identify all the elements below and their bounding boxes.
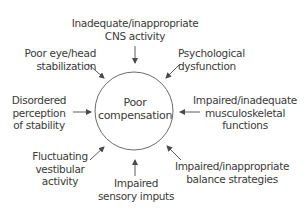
factor-top-line2: CNS activity: [60, 30, 210, 43]
center-label-line2: compensation: [94, 109, 176, 122]
factor-left-line1: Disordered: [6, 94, 72, 107]
factor-bottom-right-line2: balance strategies: [172, 173, 292, 186]
factor-bottom-line1: Impaired: [95, 177, 177, 190]
factor-bottom-line2: sensory imputs: [95, 190, 177, 203]
factor-bottom-left-line1: Fluctuating: [30, 150, 90, 163]
arrow-bottom-right: [167, 146, 181, 160]
factor-top-right: Psychological dysfunction: [178, 47, 248, 72]
factor-right-line2: musculoskeletal: [190, 107, 300, 120]
factor-right: Impaired/inadequate musculoskeletal func…: [190, 94, 300, 132]
factor-top-right-line2: dysfunction: [178, 60, 248, 73]
factor-top-left-line1: Poor eye/head: [16, 47, 96, 60]
center-label: Poor compensation: [94, 96, 176, 122]
factor-left-line2: perception: [6, 107, 72, 120]
factor-bottom-right-line1: Impaired/inappropriate: [172, 160, 292, 173]
factor-top-right-line1: Psychological: [178, 47, 248, 60]
factor-right-line1: Impaired/inadequate: [190, 94, 300, 107]
factor-bottom-left-line3: activity: [30, 175, 90, 188]
factor-top-left-line2: stabilization: [16, 60, 96, 73]
factor-bottom-left: Fluctuating vestibular activity: [30, 150, 90, 188]
factor-bottom-right: Impaired/inappropriate balance strategie…: [172, 160, 292, 185]
factor-top: Inadequate/inappropriate CNS activity: [60, 17, 210, 42]
factor-left-line3: of stability: [6, 119, 72, 132]
arrow-bottom-left: [90, 147, 104, 160]
factor-bottom-left-line2: vestibular: [30, 163, 90, 176]
factor-left: Disordered perception of stability: [6, 94, 72, 132]
center-label-line1: Poor: [94, 96, 176, 109]
factor-bottom: Impaired sensory imputs: [95, 177, 177, 202]
factor-top-line1: Inadequate/inappropriate: [60, 17, 210, 30]
factor-right-line3: functions: [190, 119, 300, 132]
factor-top-left: Poor eye/head stabilization: [16, 47, 96, 72]
